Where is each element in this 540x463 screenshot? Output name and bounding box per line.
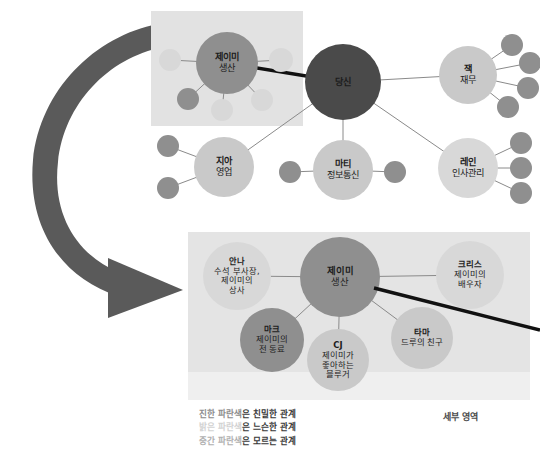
node-k-s2[interactable] (519, 52, 540, 74)
legend-text: 은 느슨한 관계 (242, 422, 296, 432)
node-g-s1[interactable] (157, 135, 179, 157)
node-j-s3[interactable] (177, 88, 199, 110)
legend-item: 진한 파란색은 친밀한 관계 (199, 408, 296, 421)
node-marty[interactable] (313, 140, 373, 200)
legend-color-word: 밝은 파란색 (199, 422, 242, 432)
node-d-jamie[interactable] (300, 237, 380, 317)
figure-canvas: 제이미생산당신잭재무지아영업마티정보통신레인인사관리 안나수석 부사장,제이미의… (0, 0, 540, 463)
node-l-s3[interactable] (510, 182, 532, 204)
node-d-anna[interactable] (203, 242, 271, 310)
node-you[interactable] (305, 44, 381, 120)
legend-text: 은 친밀한 관계 (242, 409, 296, 419)
node-lane[interactable] (438, 138, 498, 198)
node-m-s2[interactable] (384, 161, 406, 183)
node-jack[interactable] (439, 46, 497, 104)
node-k-s3[interactable] (517, 77, 539, 99)
overview-nodes (157, 32, 540, 204)
node-m-s1[interactable] (279, 161, 301, 183)
node-jia[interactable] (194, 137, 254, 197)
detail-nodes (203, 237, 504, 391)
legend-color-word: 중간 파란색 (199, 436, 242, 446)
node-j-s4[interactable] (211, 99, 233, 121)
node-d-tama[interactable] (391, 307, 453, 369)
node-l-s1[interactable] (510, 132, 532, 154)
node-d-mark[interactable] (240, 308, 304, 372)
node-g-s2[interactable] (157, 177, 179, 199)
legend-text: 은 모르는 관계 (242, 436, 296, 446)
legend-item: 중간 파란색은 모르는 관계 (199, 435, 296, 448)
legend-color-word: 진한 파란색 (199, 409, 242, 419)
relationship-legend: 진한 파란색은 친밀한 관계 밝은 파란색은 느슨한 관계 중간 파란색은 모르… (199, 408, 296, 448)
node-l-s2[interactable] (510, 157, 532, 179)
node-j-s5[interactable] (251, 89, 273, 111)
node-j-s1[interactable] (159, 49, 181, 71)
node-k-s1[interactable] (501, 34, 523, 56)
legend-item: 밝은 파란색은 느슨한 관계 (199, 421, 296, 434)
node-j-s2[interactable] (269, 48, 293, 72)
network-graphics-layer (0, 0, 540, 463)
node-d-chris[interactable] (436, 241, 504, 309)
node-d-cj[interactable] (307, 329, 369, 391)
node-jamie[interactable] (196, 32, 258, 94)
detail-area-caption: 세부 영역 (443, 410, 478, 423)
node-k-s4[interactable] (497, 96, 519, 118)
